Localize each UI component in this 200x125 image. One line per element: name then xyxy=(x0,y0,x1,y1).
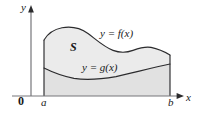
y-axis-arrowhead xyxy=(28,5,34,12)
origin-label: 0 xyxy=(18,95,24,107)
figure-region-between-curves: y x 0 a b S y = f(x) y = g(x) xyxy=(0,0,200,125)
right-bound-label-b: b xyxy=(168,97,174,108)
x-axis-arrowhead xyxy=(177,93,184,99)
lower-curve-label-g: y = g(x) xyxy=(82,62,118,73)
y-axis-label: y xyxy=(21,2,26,13)
x-axis-label: x xyxy=(186,92,191,103)
region-label-s: S xyxy=(70,41,77,53)
left-bound-label-a: a xyxy=(41,97,47,108)
upper-curve-label-f: y = f(x) xyxy=(100,28,133,39)
